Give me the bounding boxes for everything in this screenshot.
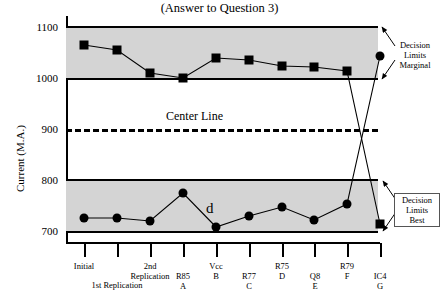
x-tick-9 xyxy=(347,243,349,257)
callout-best-line3: Best xyxy=(397,215,437,225)
marker-best-8 xyxy=(310,216,319,225)
marker-marginal-10 xyxy=(376,220,385,229)
lower-decision-band xyxy=(66,180,378,231)
callout-marginal-line3: Marginal xyxy=(393,60,437,70)
center-line xyxy=(66,129,378,132)
marker-best-7 xyxy=(278,203,287,212)
callout-best-line1: Decision xyxy=(397,195,437,205)
x-tick-7 xyxy=(282,243,284,257)
marker-marginal-7 xyxy=(278,62,287,71)
callout-decision-limits-best: Decision Limits Best xyxy=(394,193,440,227)
upper-band-bottom-edge xyxy=(66,78,378,80)
x-tick-2 xyxy=(117,243,119,257)
y-tick-label-1000: 1000 xyxy=(18,72,58,84)
marker-marginal-4 xyxy=(179,74,188,83)
upper-band-top-edge xyxy=(66,26,378,28)
x-label-q8-bottom: E xyxy=(285,282,345,292)
marker-best-10 xyxy=(376,52,385,61)
callout-decision-limits-marginal: Decision Limits Marginal xyxy=(393,40,437,70)
marker-marginal-2 xyxy=(113,46,122,55)
x-tick-8 xyxy=(314,243,316,257)
center-line-label: Center Line xyxy=(166,109,223,124)
chart-title: (Answer to Question 3) xyxy=(0,1,439,16)
marker-marginal-8 xyxy=(310,63,319,72)
marker-marginal-5 xyxy=(212,54,221,63)
callout-best-line2: Limits xyxy=(397,205,437,215)
marker-best-1 xyxy=(80,214,89,223)
marker-best-5 xyxy=(212,223,221,232)
x-label-r85-bottom: A xyxy=(153,282,213,292)
marker-marginal-6 xyxy=(245,56,254,65)
marker-best-9 xyxy=(343,200,352,209)
marker-marginal-1 xyxy=(80,41,89,50)
y-tick-label-700: 700 xyxy=(18,225,58,237)
marker-marginal-9 xyxy=(343,67,352,76)
lower-band-top-edge xyxy=(66,179,378,181)
marker-best-2 xyxy=(113,214,122,223)
x-label-r77-bottom: C xyxy=(219,282,279,292)
x-label-ic4-bottom: G xyxy=(350,282,410,292)
x-tick-6 xyxy=(249,243,251,257)
x-tick-10 xyxy=(380,243,382,257)
marker-marginal-3 xyxy=(146,69,155,78)
d-annotation: d xyxy=(206,200,214,217)
x-axis-line xyxy=(66,242,380,244)
y-tick-label-800: 800 xyxy=(18,174,58,186)
marker-best-3 xyxy=(146,217,155,226)
y-tick-label-900: 900 xyxy=(18,123,58,135)
marker-best-6 xyxy=(245,212,254,221)
x-tick-1 xyxy=(84,243,86,257)
y-tick-label-1100: 1100 xyxy=(18,21,58,33)
x-tick-4 xyxy=(183,243,185,257)
callout-marginal-line1: Decision xyxy=(393,40,437,50)
x-tick-3 xyxy=(150,243,152,257)
lower-band-bottom-edge xyxy=(66,231,378,233)
x-label-1st-replication-bottom: 1st Replication xyxy=(87,281,147,291)
callout-marginal-line2: Limits xyxy=(393,50,437,60)
x-tick-5 xyxy=(216,243,218,257)
x-label-initial-top: Initial xyxy=(54,262,114,272)
marker-best-4 xyxy=(179,189,188,198)
